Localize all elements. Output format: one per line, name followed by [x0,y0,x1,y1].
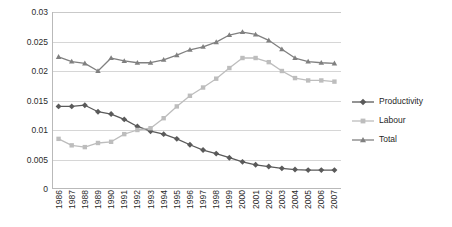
data-point [187,142,193,148]
x-tick-label: 1988 [81,190,90,209]
x-tick-label: 1989 [94,190,103,209]
data-point [293,76,297,80]
y-tick-label: 0.015 [2,96,48,105]
data-point [121,116,127,122]
data-point [226,155,232,161]
legend-label-total: Total [379,135,397,144]
data-point [331,167,337,173]
y-tick-label: 0.025 [2,37,48,46]
y-tick-label: 0.03 [2,8,48,17]
data-point [188,94,192,98]
x-tick-label: 1992 [133,190,142,209]
chart-container: 0.030.0250.020.0150.010.0050 19861987198… [0,0,452,227]
data-point [319,78,323,82]
data-point [240,159,246,165]
legend-item-labour[interactable]: Labour [352,111,452,130]
x-tick-label: 2002 [265,190,274,209]
series-productivity [56,102,338,173]
data-point [108,55,114,60]
data-point [174,136,180,142]
legend-swatch-labour [352,115,374,127]
legend-label-productivity: Productivity [379,97,423,106]
data-point [69,103,75,109]
data-point [161,116,165,120]
data-point [175,104,179,108]
series-line [59,105,335,170]
chart-legend: Productivity Labour Total [352,92,452,149]
x-tick-label: 2003 [278,190,287,209]
x-tick-label: 1995 [173,190,182,209]
x-tick-label: 1987 [68,190,77,209]
x-tick-label: 1991 [120,190,129,209]
series-line [59,32,335,71]
x-tick-label: 1986 [55,190,64,209]
data-point [253,162,259,168]
y-tick-label: 0 [2,185,48,194]
data-point [305,167,311,173]
x-tick-label: 2004 [291,190,300,209]
data-point [109,140,113,144]
data-point [95,109,101,115]
data-point [213,151,219,157]
data-point [292,167,298,173]
legend-label-labour: Labour [379,116,405,125]
data-point [70,143,74,147]
data-point [161,131,167,137]
x-tick-label: 1994 [160,190,169,209]
data-point [240,29,246,34]
data-point [200,147,206,153]
data-point [332,79,336,83]
series-layer [52,12,341,189]
data-point [96,141,100,145]
x-tick-label: 1999 [225,190,234,209]
y-tick-label: 0.005 [2,155,48,164]
data-point [201,85,205,89]
data-point [56,54,62,59]
x-tick-label: 2000 [238,190,247,209]
x-tick-label: 1998 [212,190,221,209]
x-tick-label: 2001 [252,190,261,209]
data-point [306,78,310,82]
data-point [214,76,218,80]
data-point [82,102,88,108]
legend-item-total[interactable]: Total [352,130,452,149]
y-axis: 0.030.0250.020.0150.010.0050 [0,0,48,227]
x-tick-label: 1990 [107,190,116,209]
data-point [279,165,285,171]
series-line [59,58,335,147]
data-point [253,56,257,60]
x-tick-label: 1993 [147,190,156,209]
y-tick-label: 0.02 [2,67,48,76]
data-point [227,66,231,70]
data-point [56,137,60,141]
x-tick-label: 1996 [186,190,195,209]
x-tick-label: 2005 [304,190,313,209]
data-point [122,132,126,136]
legend-swatch-total [352,134,374,146]
data-point [56,103,62,109]
x-tick-label: 2006 [317,190,326,209]
data-point [318,167,324,173]
data-point [135,128,139,132]
series-total [56,29,337,73]
data-point [266,164,272,170]
x-axis: 1986198719881989199019911992199319941995… [52,190,341,227]
y-tick-label: 0.01 [2,126,48,135]
data-point [83,145,87,149]
legend-item-productivity[interactable]: Productivity [352,92,452,111]
x-tick-label: 2007 [330,190,339,209]
x-tick-label: 1997 [199,190,208,209]
legend-swatch-productivity [352,96,374,108]
data-point [108,111,114,117]
data-point [148,126,152,130]
data-point [267,60,271,64]
data-point [240,56,244,60]
data-point [280,69,284,73]
